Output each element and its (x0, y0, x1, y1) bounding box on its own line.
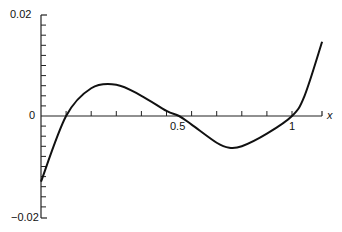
data-curve (41, 42, 322, 182)
x-axis (41, 111, 322, 116)
y-tick-label-zero: 0 (29, 109, 35, 121)
x-axis-label: x (327, 109, 333, 121)
y-tick-label-bottom: −0.02 (11, 211, 39, 223)
chart-plot (0, 0, 342, 232)
x-tick-label-one: 1 (289, 120, 295, 132)
y-tick-label-top: 0.02 (10, 8, 31, 20)
x-tick-label-half: 0.5 (170, 120, 185, 132)
